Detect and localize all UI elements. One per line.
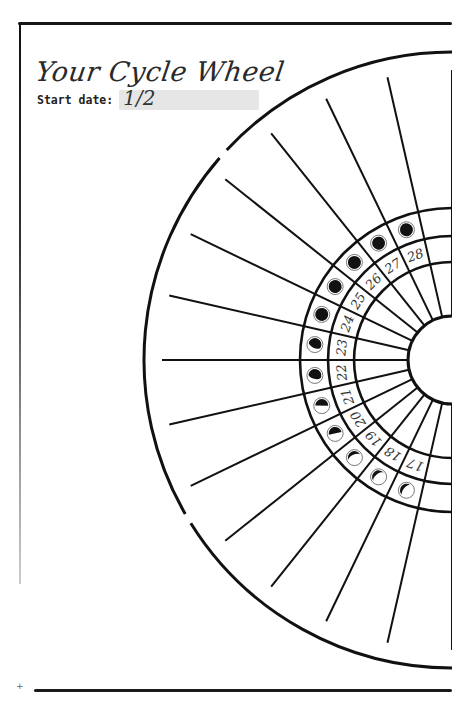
- moon-phase-icon: [397, 481, 414, 498]
- outer-ring-arc: [144, 158, 220, 514]
- day-number: 21: [337, 386, 357, 408]
- moon-phase-icon: [346, 449, 363, 466]
- moon-phase-icon: [369, 468, 386, 485]
- moon-phase-icon: [307, 336, 324, 353]
- moon-phase-icon: [307, 367, 323, 383]
- cycle-wheel: 282726252423222120191817: [0, 0, 452, 717]
- moon-phase-icon: [345, 253, 363, 271]
- outer-ring-arc: [191, 523, 452, 668]
- day-number: 24: [337, 313, 357, 335]
- day-number: 19: [362, 427, 384, 449]
- moon-phase-icon: [370, 234, 388, 252]
- moon-phase-icon: [398, 221, 415, 238]
- moon-phase-icon: [314, 398, 330, 414]
- day-number: 28: [404, 245, 426, 265]
- day-number: 18: [382, 443, 404, 465]
- outer-ring-arc: [227, 52, 452, 150]
- day-number: 25: [347, 290, 369, 313]
- day-number: 22: [333, 363, 350, 382]
- day-number: 17: [404, 455, 425, 475]
- day-number: 23: [333, 339, 350, 358]
- moon-phase-icon: [326, 278, 344, 296]
- moon-phase-icon: [327, 425, 343, 441]
- moon-phase-icon: [313, 306, 330, 323]
